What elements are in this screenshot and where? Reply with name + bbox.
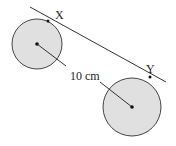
point-x-label: X [55, 8, 64, 22]
right-centre-dot [130, 105, 134, 109]
tangent-circles-diagram: X Y 10 cm [0, 0, 176, 146]
left-centre-dot [35, 42, 39, 46]
point-x-dot [47, 20, 50, 23]
distance-label: 10 cm [70, 69, 100, 83]
point-y-label: Y [146, 62, 155, 76]
